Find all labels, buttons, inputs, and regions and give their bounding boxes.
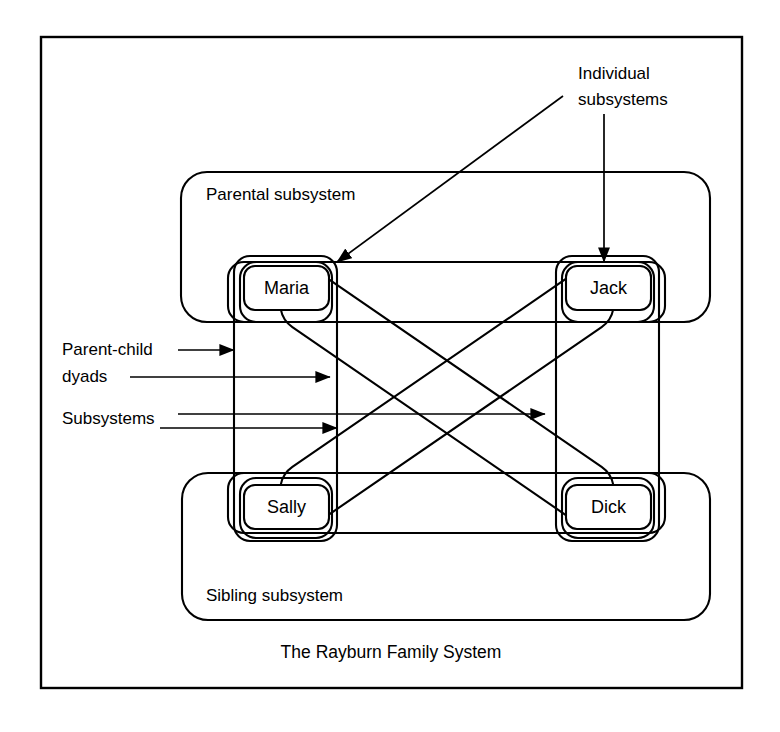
- member-label-jack: Jack: [590, 278, 628, 298]
- family-system-diagram: Maria Jack Sally Dick Individual subsyst…: [0, 0, 780, 732]
- annotation-individual-subsystems-line1: Individual: [578, 64, 650, 83]
- member-node-jack[interactable]: Jack: [566, 266, 651, 310]
- annotation-parent-child-dyads-line2: dyads: [62, 367, 107, 386]
- member-node-sally[interactable]: Sally: [244, 485, 329, 529]
- annotation-parent-child-dyads-line1: Parent-child: [62, 340, 153, 359]
- diagram-canvas: Maria Jack Sally Dick Individual subsyst…: [0, 0, 780, 732]
- sibling-subsystem-label: Sibling subsystem: [206, 586, 343, 605]
- member-label-dick: Dick: [591, 497, 627, 517]
- annotation-subsystems-label: Subsystems: [62, 409, 155, 428]
- page-background: [0, 0, 780, 732]
- member-label-sally: Sally: [267, 497, 306, 517]
- annotation-individual-subsystems-line2: subsystems: [578, 90, 668, 109]
- figure-caption: The Rayburn Family System: [281, 642, 502, 662]
- member-node-dick[interactable]: Dick: [566, 485, 651, 529]
- member-node-maria[interactable]: Maria: [244, 266, 329, 310]
- member-label-maria: Maria: [264, 278, 310, 298]
- parental-subsystem-label: Parental subsystem: [206, 185, 355, 204]
